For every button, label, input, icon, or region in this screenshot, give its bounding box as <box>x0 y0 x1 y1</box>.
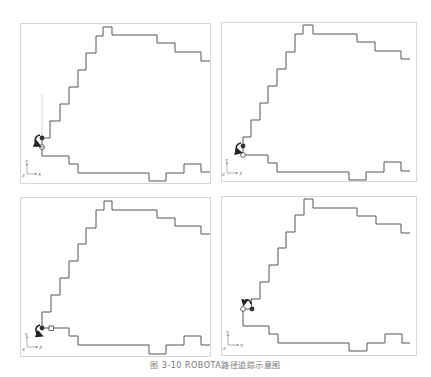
rotate-arrow-icon <box>35 135 40 145</box>
axis-label-y: Y <box>226 330 230 335</box>
rotate-arrow-icon <box>236 143 241 152</box>
axis-label-x: X <box>239 343 244 348</box>
axis-label-y: Y <box>25 332 29 337</box>
current-node-icon <box>40 326 45 331</box>
upper-path <box>42 201 210 328</box>
figure-caption: 图 3-10 ROBOTA路径追踪示意图 <box>0 359 431 370</box>
axis-label-z: Z <box>22 173 25 178</box>
axis-label-x: X <box>38 345 43 350</box>
upper-path <box>42 27 210 138</box>
axis-label-z: Z <box>223 346 226 351</box>
panel-4-markers <box>241 300 255 312</box>
lower-path <box>51 328 210 354</box>
axis-label-y: Y <box>225 158 229 163</box>
axis-triad-1: Y X Z <box>22 159 42 178</box>
rotate-arrow-icon <box>36 325 40 335</box>
upper-path <box>251 199 410 309</box>
panel-2-paths <box>243 25 410 180</box>
next-node-icon <box>241 153 246 158</box>
panel-1-paths <box>42 27 210 181</box>
next-node-icon <box>49 326 54 331</box>
rotate-arrow-icon <box>244 300 251 304</box>
axis-triad-4: Y X Z <box>223 330 244 351</box>
lower-path <box>243 309 410 351</box>
axis-label-y: Y <box>25 159 29 164</box>
next-node-icon <box>241 307 246 312</box>
current-node-icon <box>250 307 255 312</box>
panel-2-markers <box>236 143 245 157</box>
lower-path <box>42 147 210 181</box>
panel-1-markers <box>35 135 44 149</box>
panel-3-markers <box>36 325 54 335</box>
axis-label-x: X <box>238 171 243 176</box>
diagram-canvas: Y X Z Y X Z Y X Z <box>0 0 431 377</box>
axis-triad-2: Y X Z <box>222 158 243 177</box>
upper-path <box>243 25 410 146</box>
axis-label-z: Z <box>222 172 225 177</box>
axis-label-x: X <box>37 172 42 177</box>
panel-4-paths <box>243 199 410 351</box>
current-node-icon <box>241 144 246 149</box>
lower-path <box>243 155 410 180</box>
axis-label-z: Z <box>22 347 25 352</box>
current-node-icon <box>40 136 45 141</box>
panel-3-paths <box>42 201 210 354</box>
